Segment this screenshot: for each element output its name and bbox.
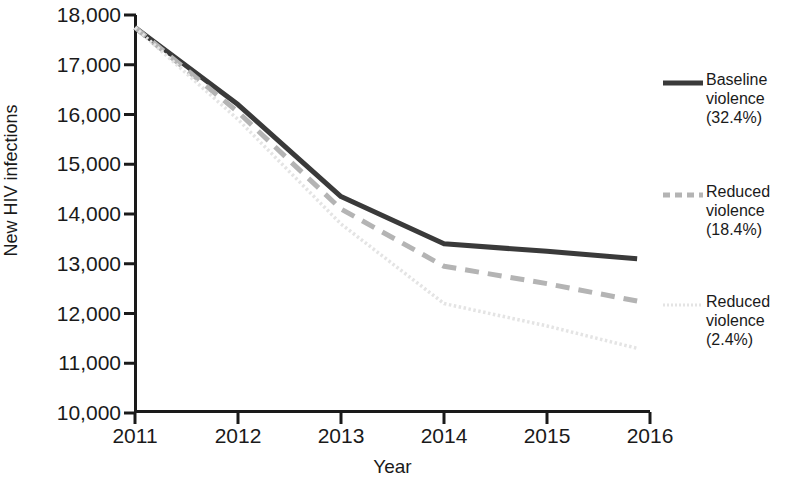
- legend-label-line: Reduced: [706, 292, 770, 311]
- x-axis-label: Year: [135, 456, 650, 478]
- data-series-group: [135, 27, 637, 348]
- legend-label: Baselineviolence(32.4%): [706, 70, 767, 127]
- figure-hiv-infections-projection: 10,00011,00012,00013,00014,00015,00016,0…: [0, 0, 801, 496]
- legend-label-line: Baseline: [706, 70, 767, 89]
- figure-title-cropped: [150, 0, 570, 1]
- x-tick-label: 2016: [627, 424, 674, 448]
- y-tick-label: 17,000: [57, 54, 121, 75]
- y-tick-label: 10,000: [57, 402, 121, 423]
- legend-label-line: violence: [706, 201, 770, 220]
- y-tick-label: 14,000: [57, 203, 121, 224]
- legend-label-line: (2.4%): [706, 330, 770, 349]
- series-line-3: [135, 27, 637, 348]
- y-tick-label: 11,000: [58, 352, 121, 373]
- legend-swatch-dashed-icon: [660, 186, 706, 204]
- legend-item: Baselineviolence(32.4%): [660, 70, 801, 127]
- x-tick-label: 2013: [318, 424, 365, 448]
- x-tick-label: 2015: [524, 424, 571, 448]
- plot-svg: [135, 15, 650, 413]
- legend-label: Reducedviolence(18.4%): [706, 182, 770, 239]
- legend-item: Reducedviolence(18.4%): [660, 182, 801, 239]
- plot-area: [135, 15, 650, 413]
- legend-item: Reducedviolence(2.4%): [660, 292, 801, 349]
- axis-lines: [135, 15, 650, 413]
- legend-swatch-dotted-icon: [660, 296, 706, 314]
- x-tick-label: 2011: [112, 424, 157, 448]
- y-tick-label: 12,000: [57, 303, 121, 324]
- legend-swatch-solid-icon: [660, 74, 706, 92]
- legend-label: Reducedviolence(2.4%): [706, 292, 770, 349]
- y-tick-label: 15,000: [57, 153, 121, 174]
- x-tick-label: 2014: [421, 424, 468, 448]
- series-line-1: [135, 27, 637, 258]
- legend-label-line: (32.4%): [706, 108, 767, 127]
- x-axis-tick-labels: 201120122013201420152016: [135, 424, 650, 452]
- legend-label-line: Reduced: [706, 182, 770, 201]
- x-axis-ticks: [135, 412, 650, 424]
- legend-label-line: violence: [706, 311, 770, 330]
- y-tick-label: 13,000: [57, 253, 121, 274]
- y-tick-label: 16,000: [57, 104, 121, 125]
- series-line-2: [135, 27, 637, 301]
- y-tick-label: 18,000: [57, 4, 121, 25]
- x-tick-label: 2012: [215, 424, 262, 448]
- legend-label-line: violence: [706, 89, 767, 108]
- y-axis-label: New HIV infections: [1, 56, 22, 306]
- legend-label-line: (18.4%): [706, 220, 770, 239]
